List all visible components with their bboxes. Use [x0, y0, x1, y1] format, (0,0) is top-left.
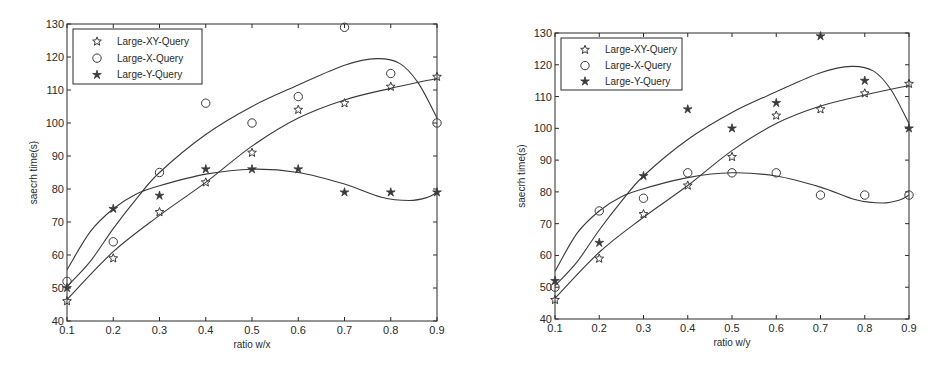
filled-star-marker — [155, 191, 164, 199]
filled-star-marker — [772, 98, 781, 106]
circle-marker — [684, 169, 692, 177]
filled-star-marker — [728, 124, 737, 132]
y-tick-label: 70 — [540, 218, 552, 230]
fit-curve-large-y-query — [555, 66, 909, 285]
circle-marker — [248, 119, 256, 127]
y-tick-label: 120 — [534, 59, 552, 71]
star-marker — [728, 152, 737, 160]
fit-curves — [555, 66, 909, 298]
x-tick-label: 0.5 — [724, 322, 739, 334]
legend-entry: Large-Y-Query — [117, 69, 182, 80]
filled-star-marker — [386, 188, 395, 196]
x-tick-label: 0.7 — [813, 322, 828, 334]
filled-star-marker — [248, 165, 257, 173]
x-tick-label: 0.6 — [291, 324, 306, 336]
star-marker — [155, 208, 164, 216]
filled-star-marker — [201, 165, 210, 173]
y-tick-label: 60 — [540, 249, 552, 261]
y-tick-label: 100 — [46, 117, 64, 129]
x-tick-label: 0.3 — [152, 324, 167, 336]
x-axis-label: ratio w/y — [713, 337, 750, 348]
fit-curve-large-x-query — [555, 173, 909, 272]
circle-marker — [202, 99, 210, 107]
legend: Large-XY-QueryLarge-X-QueryLarge-Y-Query — [73, 29, 202, 84]
series-large-x-query — [551, 169, 913, 292]
fit-curves — [67, 59, 437, 300]
x-tick-label: 0.8 — [383, 324, 398, 336]
y-tick-label: 90 — [540, 154, 552, 166]
star-marker — [772, 111, 781, 119]
y-tick-label: 100 — [534, 122, 552, 134]
x-tick-label: 0.5 — [244, 324, 259, 336]
y-tick-label: 50 — [52, 282, 64, 294]
y-axis-label: saecrh time(s) — [28, 141, 39, 204]
chart-search-time-vs-ratio-wx: 0.10.20.30.40.50.60.70.80.9ratio w/x4050… — [0, 0, 943, 369]
x-tick-label: 0.9 — [901, 322, 916, 334]
y-tick-label: 110 — [534, 91, 552, 103]
star-marker — [639, 210, 648, 218]
filled-star-marker — [340, 188, 349, 196]
filled-star-marker — [595, 238, 604, 246]
circle-marker — [639, 194, 647, 202]
y-tick-label: 80 — [540, 186, 552, 198]
fit-curve-large-xy-query — [67, 78, 437, 299]
legend-entry: Large-XY-Query — [117, 36, 189, 47]
x-tick-label: 0.6 — [769, 322, 784, 334]
star-marker — [816, 105, 825, 113]
fit-curve-large-y-query — [67, 169, 437, 270]
legend-entry: Large-X-Query — [605, 60, 671, 71]
y-tick-label: 70 — [52, 216, 64, 228]
x-tick-label: 0.2 — [592, 322, 607, 334]
x-tick-label: 0.4 — [198, 324, 213, 336]
y-tick-label: 50 — [540, 281, 552, 293]
figure-container: 0.10.20.30.40.50.60.70.80.9ratio w/x4050… — [0, 0, 943, 369]
x-tick-label: 0.4 — [680, 322, 695, 334]
y-tick-label: 90 — [52, 150, 64, 162]
chart-ratio-wy: 0.10.20.30.40.50.60.70.80.9ratio w/y4050… — [516, 27, 917, 348]
x-tick-label: 0.3 — [636, 322, 651, 334]
x-tick-label: 0.8 — [857, 322, 872, 334]
x-tick-label: 0.2 — [106, 324, 121, 336]
filled-star-marker — [683, 105, 692, 113]
y-tick-label: 40 — [540, 313, 552, 325]
legend: Large-XY-QueryLarge-X-QueryLarge-Y-Query — [561, 38, 682, 90]
circle-marker — [294, 92, 302, 100]
chart-ratio-wx: 0.10.20.30.40.50.60.70.80.9ratio w/x4050… — [28, 18, 445, 350]
x-tick-label: 0.7 — [337, 324, 352, 336]
y-tick-label: 40 — [52, 315, 64, 327]
x-axis-label: ratio w/x — [233, 339, 270, 350]
circle-marker — [861, 191, 869, 199]
y-tick-label: 60 — [52, 249, 64, 261]
legend-entry: Large-X-Query — [117, 53, 183, 64]
legend-entry: Large-Y-Query — [605, 76, 670, 87]
x-tick-label: 0.9 — [429, 324, 444, 336]
filled-star-marker — [860, 76, 869, 84]
y-tick-label: 120 — [46, 51, 64, 63]
legend-entry: Large-XY-Query — [605, 44, 677, 55]
circle-marker — [109, 238, 117, 246]
fit-curve-large-x-query — [67, 59, 437, 287]
fit-curve-large-xy-query — [555, 85, 909, 298]
y-tick-label: 130 — [534, 27, 552, 39]
y-tick-label: 80 — [52, 183, 64, 195]
y-tick-label: 110 — [46, 84, 64, 96]
circle-marker — [816, 191, 824, 199]
circle-marker — [387, 69, 395, 77]
series-large-y-query — [63, 165, 442, 292]
y-axis-label: saecrh time(s) — [516, 144, 527, 207]
star-marker — [340, 99, 349, 107]
star-marker — [294, 105, 303, 113]
star-marker — [248, 148, 257, 156]
y-tick-label: 130 — [46, 18, 64, 30]
